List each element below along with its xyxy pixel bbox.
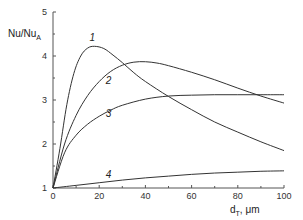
x-tick-label: 20: [94, 191, 104, 201]
curve-label-1: 1: [89, 32, 95, 43]
curve-4: [53, 171, 284, 188]
curve-3: [53, 95, 284, 188]
y-tick-label: 2: [42, 139, 47, 149]
y-tick-label: 3: [42, 95, 47, 105]
curve-label-3: 3: [106, 108, 112, 119]
curve-labels: 1234: [89, 32, 111, 180]
chart: 02040608010012345 1234 Nu/NuA dT, μm: [0, 0, 303, 220]
x-tick-label: 0: [50, 191, 55, 201]
x-axis-label: dT, μm: [230, 204, 260, 217]
y-tick-label: 4: [42, 51, 47, 61]
x-tick-label: 100: [276, 191, 291, 201]
curve-label-4: 4: [106, 169, 112, 180]
curve-1: [53, 46, 284, 188]
x-tick-label: 40: [140, 191, 150, 201]
y-axis-label: Nu/NuA: [8, 28, 41, 41]
y-tick-label: 1: [42, 183, 47, 193]
x-tick-label: 80: [233, 191, 243, 201]
curve-label-2: 2: [105, 75, 112, 86]
curves: [53, 46, 284, 188]
y-tick-label: 5: [42, 7, 47, 17]
x-tick-label: 60: [187, 191, 197, 201]
